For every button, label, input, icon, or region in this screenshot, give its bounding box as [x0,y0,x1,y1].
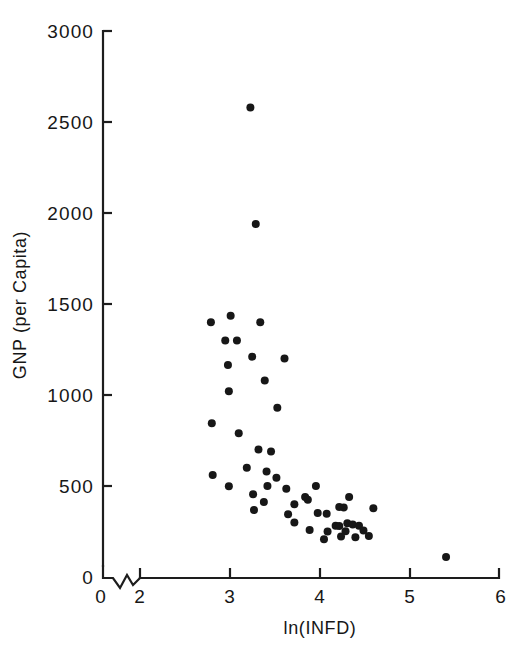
x-tick-label-2: 2 [134,586,146,607]
scatter-plot-figure: 0 2 3 4 5 6 3000 2500 2000 1500 1000 500… [0,0,522,646]
x-axis-break-zigzag [103,566,140,588]
data-point [323,510,331,518]
data-point [282,485,290,493]
data-point [256,318,264,326]
data-point [225,482,233,490]
data-point [320,535,328,543]
data-point [208,419,216,427]
x-axis-title: ln(INFD) [284,618,357,638]
data-point [227,312,235,320]
data-point [243,464,251,472]
data-point [273,404,281,412]
data-point [249,490,257,498]
data-point [272,474,280,482]
x-tick-label-5: 5 [404,586,416,607]
data-point [233,336,241,344]
data-point [225,387,233,395]
data-point [267,447,275,455]
y-tick-label-1000: 1000 [47,385,94,406]
data-point [281,355,289,363]
data-point [340,503,348,511]
chart-canvas: 0 2 3 4 5 6 3000 2500 2000 1500 1000 500… [0,0,522,646]
y-tick-label-500: 500 [59,476,94,497]
data-point [284,510,292,518]
data-points-layer [207,103,450,561]
data-point [250,506,258,514]
data-point [351,533,359,541]
data-point [365,532,373,540]
y-tick-label-1500: 1500 [47,294,94,315]
y-tick-label-0: 0 [82,567,94,588]
y-axis-title: GNP (per Capita) [10,231,30,379]
data-point [442,553,450,561]
data-point [207,318,215,326]
data-point [235,429,243,437]
data-point [324,528,332,536]
data-point [221,336,229,344]
y-axis-ticks [103,31,112,486]
data-point [345,493,353,501]
data-point [260,498,268,506]
data-point [246,103,254,111]
data-point [369,504,377,512]
data-point [335,522,343,530]
data-point [337,533,345,541]
x-axis-ticks [140,568,410,578]
data-point [304,496,312,504]
x-tick-label-6: 6 [495,586,507,607]
x-tick-label-0: 0 [95,586,107,607]
data-point [263,482,271,490]
data-point [209,471,217,479]
data-point [224,361,232,369]
data-point [252,220,260,228]
data-point [290,500,298,508]
y-tick-label-3000: 3000 [47,21,94,42]
data-point [290,518,298,526]
data-point [261,376,269,384]
x-tick-label-4: 4 [314,586,326,607]
data-point [248,353,256,361]
x-tick-labels: 0 2 3 4 5 6 [95,586,507,607]
y-tick-labels: 3000 2500 2000 1500 1000 500 0 [47,21,94,588]
data-point [314,509,322,517]
data-point [312,482,320,490]
y-tick-label-2500: 2500 [47,112,94,133]
data-point [254,446,262,454]
data-point [306,526,314,534]
data-point [263,467,271,475]
x-tick-label-3: 3 [224,586,236,607]
y-tick-label-2000: 2000 [47,203,94,224]
